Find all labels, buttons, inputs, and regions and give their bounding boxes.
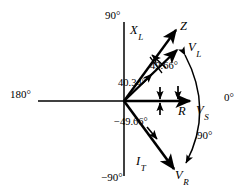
vector-label-vs: VS	[196, 104, 208, 120]
axis-label-0-right: 0°	[224, 92, 234, 103]
vector-label-vr-main: V	[175, 168, 183, 182]
axis-label-xl: XL	[130, 24, 143, 40]
vector-label-vs-main: V	[196, 103, 204, 117]
axis-label-xl-main: X	[130, 23, 138, 37]
phasor-diagram-figure: 90° 180° 0° −90° XL Z VL VS R IT VR 49.6…	[0, 0, 249, 193]
vector-it-vr	[124, 101, 174, 169]
vector-label-vl-main: V	[188, 40, 196, 54]
axis-label-90-top: 90°	[105, 10, 120, 21]
vector-label-it-main: I	[136, 154, 140, 168]
vector-label-z: Z	[180, 20, 187, 33]
vector-label-vl: VL	[188, 41, 201, 57]
vector-label-vs-sub: S	[204, 112, 209, 122]
axis-label-180-left: 180°	[10, 89, 31, 100]
phasor-diagram-canvas	[0, 0, 249, 193]
vector-label-vr-sub: R	[183, 177, 189, 187]
vector-label-r-main: R	[178, 104, 186, 118]
angle-label-vl: 40.34°	[118, 78, 146, 89]
axis-label-xl-sub: L	[138, 32, 143, 42]
vector-label-vr: VR	[175, 169, 188, 185]
angle-label-it: −49.66°	[114, 117, 148, 128]
vector-label-it-sub: T	[141, 163, 146, 173]
vector-label-vl-sub: L	[196, 49, 201, 59]
arc-label-90: 90°	[197, 130, 212, 141]
axis-group	[38, 22, 124, 176]
vector-group	[124, 30, 190, 169]
angle-label-z: 49.66°	[150, 61, 178, 72]
vector-label-z-main: Z	[180, 19, 187, 33]
vector-label-it: IT	[136, 155, 145, 171]
axis-label-minus-90-bottom: −90°	[101, 172, 123, 183]
vector-label-r: R	[178, 105, 186, 118]
